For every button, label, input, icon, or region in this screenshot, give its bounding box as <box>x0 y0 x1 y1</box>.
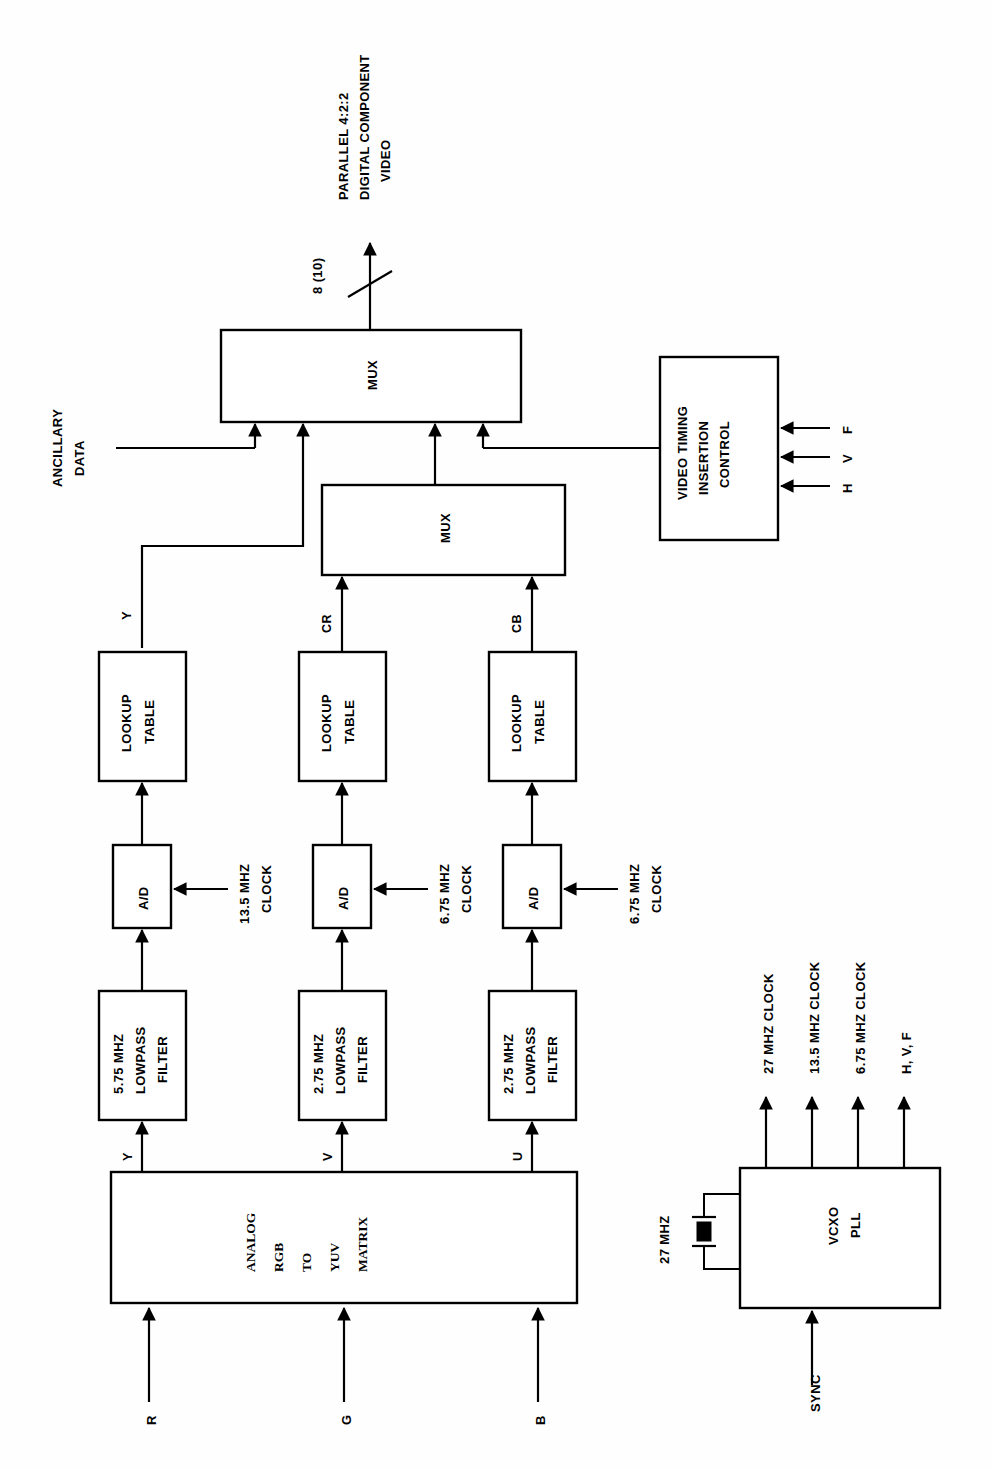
timing-input-label-v: V <box>840 454 855 463</box>
video-timing-label-line1: VIDEO TIMING <box>675 406 690 500</box>
crystal-wire-top <box>704 1194 740 1216</box>
matrix-label-line4: YUV <box>327 1243 342 1272</box>
matrix-out-label-v: V <box>321 1152 335 1161</box>
lookup-table-cr-line1: LOOKUP <box>319 694 334 752</box>
matrix-to-lpf-arrows <box>142 1122 532 1172</box>
encoder-block-diagram: 8 (10) PARALLEL 4:2:2 DIGITAL COMPONENT … <box>0 0 991 1470</box>
lowpass-filter-u-line1: 2.75 MHZ <box>501 1034 516 1094</box>
lookup-table-cb-line1: LOOKUP <box>509 694 524 752</box>
matrix-label-line3: TO <box>299 1253 314 1272</box>
lowpass-filter-u-line2: LOWPASS <box>523 1026 538 1094</box>
mux-chroma-label: MUX <box>438 513 453 543</box>
crystal-network-group <box>692 1194 740 1269</box>
lowpass-filter-u-line3: FILTER <box>545 1036 560 1083</box>
mux-chroma-input-arrows <box>342 577 532 600</box>
rgb-input-label-b: B <box>533 1415 548 1425</box>
pll-output-label-hvf: H, V, F <box>899 1032 914 1074</box>
output-bus-arrow-group <box>348 243 392 330</box>
matrix-label-line1: ANALOG <box>243 1212 258 1272</box>
ad-clock-label-y-line1: 13.5 MHZ <box>237 864 252 924</box>
rgb-input-label-g: G <box>339 1414 354 1425</box>
ad-to-lookup-arrows <box>142 783 532 845</box>
pll-output-label-27mhz: 27 MHZ CLOCK <box>761 973 776 1074</box>
ad-clock-label-cb-line2: CLOCK <box>649 865 664 913</box>
matrix-label-line2: RGB <box>271 1243 286 1272</box>
ad-converter-cr-label: A/D <box>336 886 351 910</box>
crystal-frequency-label: 27 MHZ <box>657 1215 672 1264</box>
output-label-line3: VIDEO <box>378 140 393 182</box>
pll-output-label-6p75mhz: 6.75 MHZ CLOCK <box>853 961 868 1074</box>
ad-converter-y-label: A/D <box>136 886 151 910</box>
luma-y-signal-label: Y <box>119 611 134 620</box>
mux-output-input-arrows <box>255 424 483 448</box>
crystal-wire-bottom <box>704 1247 740 1269</box>
lowpass-filter-v-line3: FILTER <box>355 1036 370 1083</box>
mux-output-label: MUX <box>365 360 380 390</box>
lowpass-filter-v-line2: LOWPASS <box>333 1026 348 1094</box>
pll-output-arrows <box>766 1097 904 1168</box>
vcxo-pll-label-line2: PLL <box>848 1212 863 1238</box>
timing-input-label-h: H <box>840 483 855 493</box>
lpf-to-ad-arrows <box>142 930 532 991</box>
ad-converter-cb-label: A/D <box>526 886 541 910</box>
ad-clock-label-cr-line2: CLOCK <box>459 865 474 913</box>
matrix-out-label-u: U <box>511 1152 525 1161</box>
rgb-input-label-r: R <box>144 1415 159 1425</box>
ad-clock-label-cr-line1: 6.75 MHZ <box>437 864 452 924</box>
lookup-table-y-line2: TABLE <box>142 700 157 744</box>
ancillary-label-line2: DATA <box>72 440 87 476</box>
lowpass-filter-y-line3: FILTER <box>155 1036 170 1083</box>
ad-clock-label-y-line2: CLOCK <box>259 865 274 913</box>
lowpass-filter-y-line1: 5.75 MHZ <box>111 1034 126 1094</box>
timing-input-label-f: F <box>840 426 855 434</box>
bus-width-label: 8 (10) <box>310 258 325 294</box>
luma-y-wire-to-mux <box>142 448 303 648</box>
vcxo-pll-label-line1: VCXO <box>826 1207 841 1245</box>
lookup-table-cb-line2: TABLE <box>532 700 547 744</box>
block-diagram-canvas: 8 (10) PARALLEL 4:2:2 DIGITAL COMPONENT … <box>0 0 991 1470</box>
lowpass-filter-y-line2: LOWPASS <box>133 1026 148 1094</box>
sync-input-label: SYNC <box>808 1374 823 1412</box>
cr-signal-label: CR <box>320 614 334 633</box>
crystal-body-icon <box>697 1222 711 1241</box>
rgb-input-arrows <box>149 1308 538 1402</box>
ad-clock-label-cb-line1: 6.75 MHZ <box>627 864 642 924</box>
lookup-table-cr-line2: TABLE <box>342 700 357 744</box>
video-timing-label-line2: INSERTION <box>696 421 711 495</box>
video-timing-label-line3: CONTROL <box>717 421 732 488</box>
lowpass-filter-v-line1: 2.75 MHZ <box>311 1034 326 1094</box>
output-label-line1: PARALLEL 4:2:2 <box>336 92 351 200</box>
pll-output-label-13p5mhz: 13.5 MHZ CLOCK <box>807 961 822 1074</box>
cb-signal-label: CB <box>510 614 524 633</box>
matrix-out-label-y: Y <box>121 1152 135 1161</box>
ancillary-label-line1: ANCILLARY <box>50 409 65 487</box>
timing-input-arrows <box>781 428 830 486</box>
matrix-label-line5: MATRIX <box>355 1217 370 1272</box>
output-label-line2: DIGITAL COMPONENT <box>357 54 372 200</box>
analog-rgb-to-yuv-matrix-block[interactable] <box>111 1172 577 1303</box>
lookup-table-y-line1: LOOKUP <box>119 694 134 752</box>
